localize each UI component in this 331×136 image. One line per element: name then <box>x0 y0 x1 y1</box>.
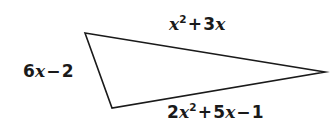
label-bottom-coefficient-2: 5 <box>213 102 225 122</box>
label-bottom-coefficient-1: 2 <box>167 102 179 122</box>
side-label-bottom: 2x2+5x−1 <box>167 104 264 121</box>
label-bottom-operator-1: + <box>197 102 213 122</box>
label-top-coefficient-2: 3 <box>203 14 215 34</box>
label-bottom-constant: 1 <box>252 102 264 122</box>
geometry-figure: x2+3x 6x−2 2x2+5x−1 <box>0 0 331 136</box>
triangle-outline <box>85 33 325 108</box>
side-label-top: x2+3x <box>169 16 225 33</box>
label-top-variable-1: x <box>169 14 179 34</box>
label-top-operator-1: + <box>187 14 203 34</box>
label-left-coefficient-1: 6 <box>23 61 35 81</box>
label-left-constant: 2 <box>62 61 74 81</box>
label-top-variable-2: x <box>215 14 225 34</box>
label-left-variable-1: x <box>35 61 45 81</box>
label-bottom-exponent-1: 2 <box>189 101 197 113</box>
label-bottom-operator-2: − <box>235 102 251 122</box>
label-bottom-variable-1: x <box>179 102 189 122</box>
side-label-left: 6x−2 <box>23 63 74 80</box>
label-bottom-variable-2: x <box>225 102 235 122</box>
label-left-operator-1: − <box>45 61 61 81</box>
label-top-exponent-1: 2 <box>179 13 187 25</box>
